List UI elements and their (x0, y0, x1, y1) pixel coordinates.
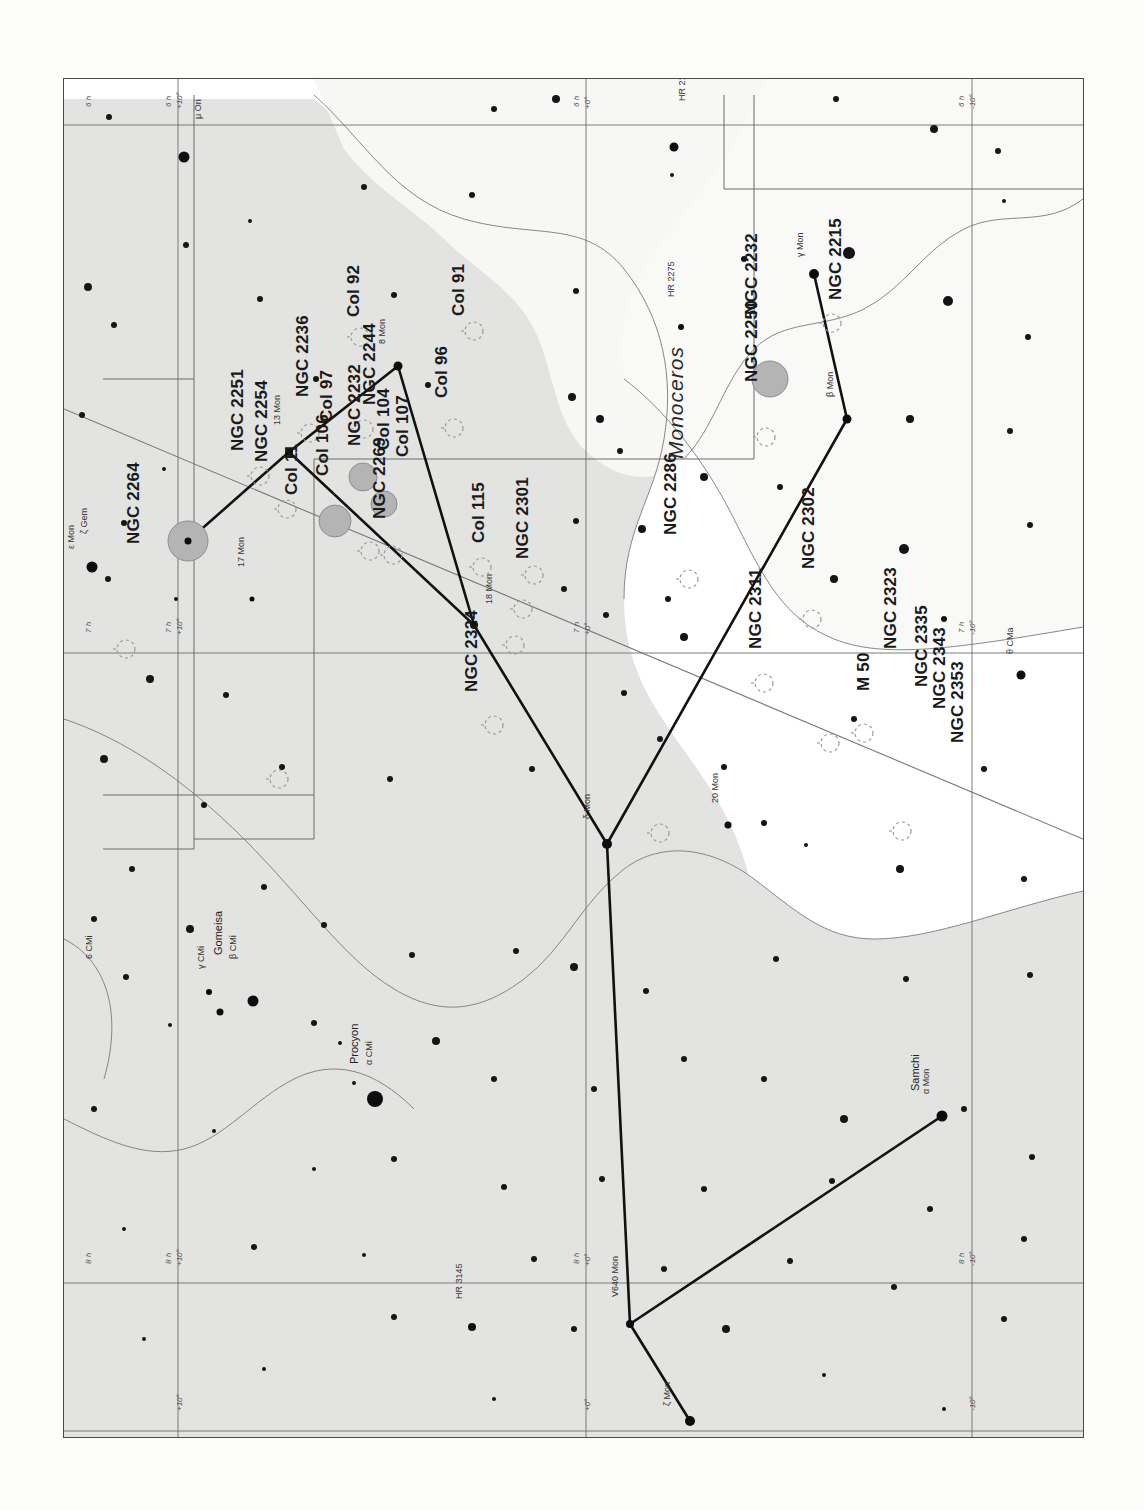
dso-label: Col 11 (282, 444, 302, 495)
star-chart: NGC 2264NGC 2251NGC 2254NGC 2236Col 11Co… (63, 78, 1084, 1438)
grid-ra-label: 8 h (84, 1253, 93, 1264)
star-name-label: 13 Mon (272, 395, 282, 425)
constellation-name-label: Monoceros (664, 346, 688, 459)
star-name-label: ζ Gem (79, 508, 89, 534)
grid-dec-label: +0° (583, 623, 592, 635)
star-name-label: γ Mon (795, 232, 805, 257)
dso-label: Col 92 (344, 265, 364, 317)
grid-ra-label: 8 h (164, 1253, 173, 1264)
dso-label: NGC 2264 (124, 462, 144, 544)
star-name-label: Gomeisa (212, 911, 224, 955)
star-name-label: μ Ori (193, 99, 203, 119)
grid-dec-label: -10° (968, 94, 977, 109)
grid-dec-label: +10° (175, 618, 184, 635)
dso-label: Col 97 (317, 370, 337, 422)
grid-dec-label: +10° (175, 92, 184, 109)
grid-ra-label: 7 h (572, 622, 581, 633)
grid-dec-label: +0° (583, 1399, 592, 1411)
star-name-label: γ CMi (196, 946, 206, 969)
dso-label: NGC 2251 (228, 369, 248, 451)
star-name-label: Procyon (348, 1024, 360, 1064)
star-name-label: β Mon (825, 372, 835, 397)
dso-label: NGC 2286 (661, 453, 681, 535)
grid-dec-label: +10° (175, 1249, 184, 1266)
star-name-label: ε Mon (66, 525, 76, 549)
dso-label: M 50 (854, 652, 874, 691)
dso-label: NGC 2215 (826, 218, 846, 300)
grid-ra-label: 6 h (84, 96, 93, 107)
star-name-label: HR 2113 (677, 78, 687, 101)
book-page-background: the most prominent feature ofthe winter … (0, 0, 1144, 1510)
dso-label: NGC 2324 (462, 610, 482, 692)
star-name-label: 20 Mon (710, 773, 720, 803)
grid-dec-label: -10° (968, 1396, 977, 1411)
star-name-label: HR 2275 (666, 261, 676, 297)
star-name-label: 17 Mon (236, 537, 246, 567)
grid-ra-label: 8 h (957, 1253, 966, 1264)
star-name-label: α Mon (921, 1069, 931, 1094)
star-name-label: δ Mon (582, 794, 592, 819)
dso-label: NGC 2311 (746, 568, 766, 649)
grid-dec-label: +0° (583, 97, 592, 109)
grid-ra-label: 6 h (957, 96, 966, 107)
grid-dec-label: +0° (583, 1254, 592, 1266)
star-name-label: 6 CMi (84, 935, 94, 959)
dso-label: NGC 2335 (912, 605, 932, 687)
dso-label: NGC 2343 (930, 627, 950, 709)
dso-label: NGC 2269 (370, 437, 390, 519)
dso-label: NGC 2301 (513, 477, 533, 559)
star-name-label: 8 Mon (377, 319, 387, 344)
dso-label: Col 106 (313, 414, 333, 476)
dso-label: NGC 2353 (948, 661, 968, 743)
star-name-label: α CMi (364, 1041, 374, 1065)
grid-ra-label: 8 h (572, 1253, 581, 1264)
grid-ra-label: 7 h (957, 622, 966, 633)
dso-label: Col 91 (449, 264, 469, 316)
grid-dec-label: +10° (175, 1394, 184, 1411)
star-name-label: HR 3145 (454, 1263, 464, 1299)
dso-label: NGC 2236 (293, 315, 313, 397)
dso-label: NGC 2250 (742, 300, 762, 382)
star-name-label: β CMi (228, 935, 238, 959)
dso-label: Col 96 (432, 346, 452, 398)
star-name-label: Samchi (909, 1054, 921, 1091)
background-field-stars (64, 79, 1083, 1437)
dso-label: NGC 2254 (252, 380, 272, 462)
star-name-label: 18 Mon (484, 574, 494, 604)
star-name-label: θ CMa (1005, 627, 1015, 654)
grid-ra-label: 6 h (164, 96, 173, 107)
star-name-label: V640 Mon (610, 1256, 620, 1297)
dso-label: NGC 2302 (799, 487, 819, 569)
grid-dec-label: -10° (968, 620, 977, 635)
dso-label: NGC 2323 (881, 567, 901, 649)
dso-label: Col 115 (469, 482, 489, 543)
grid-dec-label: -10° (968, 1251, 977, 1266)
dso-label: Col 107 (393, 395, 413, 457)
grid-ra-label: 7 h (84, 622, 93, 633)
grid-ra-label: 7 h (164, 622, 173, 633)
grid-ra-label: 6 h (572, 96, 581, 107)
star-name-label: ζ Mon (662, 1382, 672, 1406)
